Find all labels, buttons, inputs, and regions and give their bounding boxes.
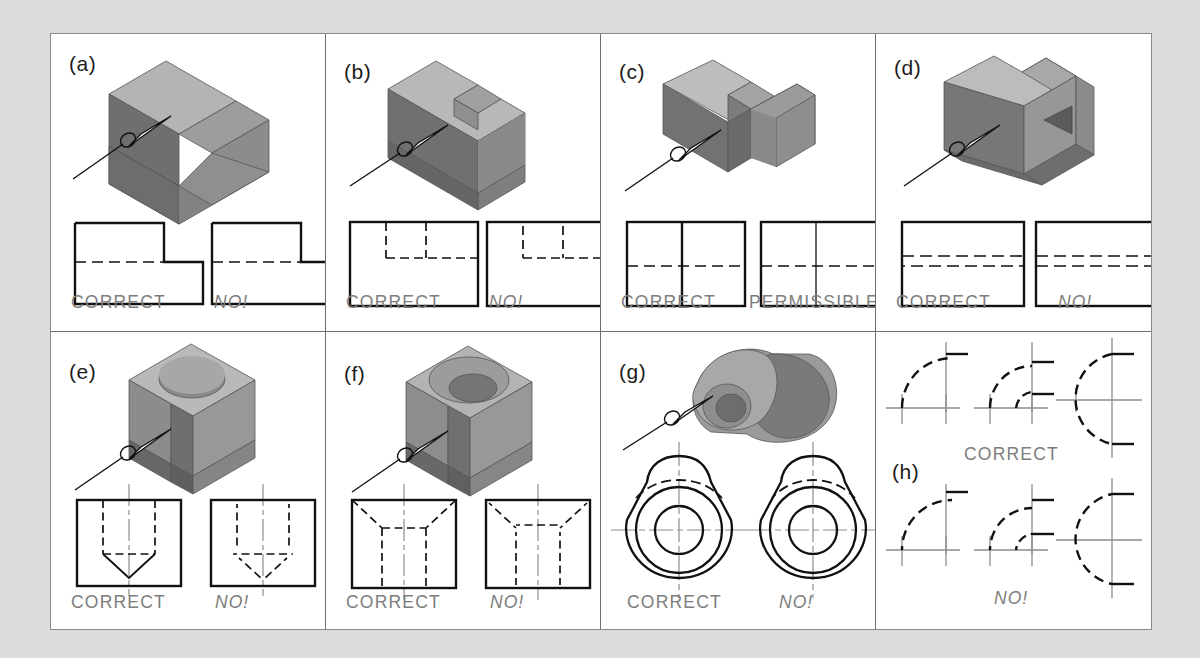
panel-c-label-correct: CORRECT — [621, 292, 716, 313]
h-correct-case-2 — [974, 342, 1054, 424]
panel-e: (e) — [51, 332, 326, 630]
panel-d-label-correct: CORRECT — [896, 292, 991, 313]
isometric-cube-blind-hole — [129, 344, 255, 494]
figure-sheet: (a) — [50, 33, 1152, 630]
view-direction-arrow — [623, 396, 713, 450]
orthographic-view-correct — [77, 484, 181, 596]
panel-c: (c) — [601, 34, 876, 332]
orthographic-view-no — [747, 442, 876, 598]
panel-a-label-no: NO! — [214, 292, 248, 313]
isometric-recess-block — [944, 56, 1094, 185]
panel-g-label-no: NO! — [779, 592, 813, 613]
panel-f-label-no: NO! — [490, 592, 524, 613]
panel-e-graphics — [51, 332, 326, 630]
h-no-case-3 — [1056, 478, 1142, 598]
panel-d: (d) — [876, 34, 1151, 332]
panel-g: (g) — [601, 332, 876, 630]
panel-d-graphics — [876, 34, 1151, 332]
panel-a: (a) — [51, 34, 326, 332]
panel-b-graphics — [326, 34, 601, 332]
orthographic-view-correct — [611, 442, 747, 598]
orthographic-view-correct — [352, 484, 456, 600]
panel-a-graphics — [51, 34, 326, 332]
h-correct-case-3 — [1056, 338, 1142, 458]
panel-h: (h) — [876, 332, 1151, 630]
panel-f: (f) — [326, 332, 601, 630]
panel-g-label-correct: CORRECT — [627, 592, 722, 613]
orthographic-view-no — [211, 484, 315, 596]
isometric-notched-block — [388, 61, 525, 210]
panel-h-label-correct: CORRECT — [964, 444, 1059, 465]
orthographic-view-no — [1036, 222, 1151, 306]
h-correct-case-1 — [886, 342, 968, 424]
h-no-case-2 — [974, 484, 1054, 566]
panel-b: (b) — [326, 34, 601, 332]
panel-f-label-correct: CORRECT — [346, 592, 441, 613]
panel-h-label-no: NO! — [994, 588, 1028, 609]
panel-e-label-correct: CORRECT — [71, 592, 166, 613]
orthographic-view-no — [486, 484, 590, 600]
panel-e-label-no: NO! — [215, 592, 249, 613]
panel-c-graphics — [601, 34, 876, 332]
panel-g-graphics — [601, 332, 876, 630]
isometric-teardrop-boss — [693, 349, 837, 442]
panel-b-label-correct: CORRECT — [346, 292, 441, 313]
isometric-cube-countersink — [406, 346, 532, 496]
panel-h-graphics — [876, 332, 1151, 630]
panel-f-graphics — [326, 332, 601, 630]
panel-d-label-no: NO! — [1058, 292, 1092, 313]
panel-b-label-no: NO! — [489, 292, 523, 313]
panel-grid: (a) — [51, 34, 1151, 629]
h-no-case-1 — [886, 484, 968, 566]
panel-c-label-permissible: PERMISSIBLE — [749, 292, 876, 313]
panel-a-label-correct: CORRECT — [71, 292, 166, 313]
